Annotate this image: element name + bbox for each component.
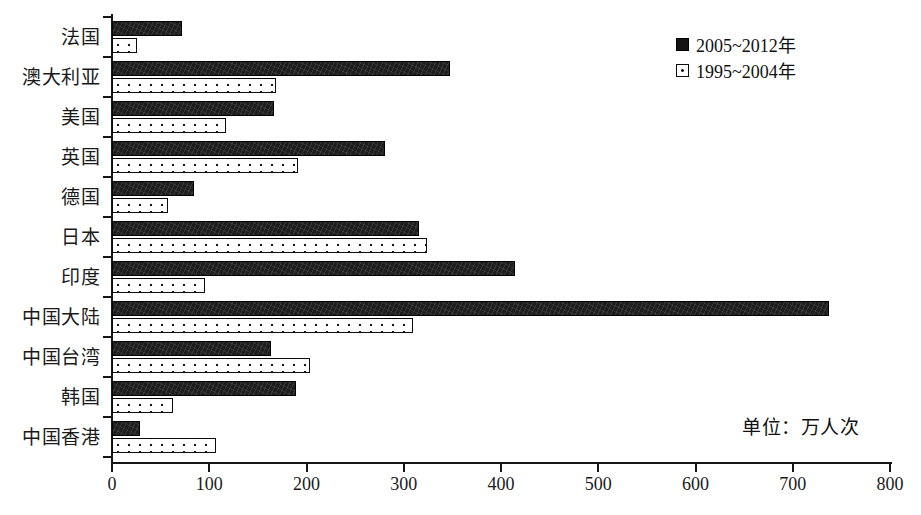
y-axis-tick [103,56,112,58]
y-axis-tick [103,456,112,458]
y-axis-tick [103,256,112,258]
x-axis-tick-label: 100 [179,474,239,495]
x-axis-tick-label: 0 [82,474,142,495]
y-axis-tick [103,176,112,178]
category-label: 英国 [61,138,100,178]
x-axis-tick-label: 300 [374,474,434,495]
bar-earlier [112,198,168,213]
category-label: 中国大陆 [22,298,100,338]
bar-recent [112,221,419,236]
plot-area: 0100200300400500600700800 [112,18,890,458]
bar-earlier [112,318,413,333]
x-axis-tick [111,464,113,472]
bar-recent [112,421,140,436]
x-axis-tick [597,464,599,472]
legend-label: 2005~2012年 [696,31,796,57]
category-label: 中国香港 [22,418,100,458]
y-axis-tick [103,96,112,98]
x-axis-tick [695,464,697,472]
y-axis-tick [103,216,112,218]
legend-swatch-solid-icon [676,38,689,51]
horizontal-bar-chart: 法国澳大利亚美国英国德国日本印度中国大陆中国台湾韩国中国香港 010020030… [0,0,921,515]
y-axis-tick [103,336,112,338]
bar-recent [112,261,515,276]
y-axis-tick [103,16,112,18]
category-label: 中国台湾 [22,338,100,378]
bar-recent [112,141,385,156]
bar-earlier [112,78,276,93]
y-axis-tick [103,376,112,378]
bar-earlier [112,278,205,293]
x-axis-tick-label: 200 [277,474,337,495]
bar-recent [112,301,829,316]
bar-recent [112,61,450,76]
bar-recent [112,21,182,36]
bar-recent [112,341,271,356]
bar-earlier [112,158,298,173]
bar-earlier [112,358,310,373]
category-label: 德国 [61,178,100,218]
x-axis-tick-label: 400 [471,474,531,495]
x-axis-tick [889,464,891,472]
category-label: 韩国 [61,378,100,418]
bar-earlier [112,118,226,133]
category-label: 美国 [61,98,100,138]
category-label: 澳大利亚 [22,58,100,98]
category-label: 法国 [61,18,100,58]
y-axis-tick [103,416,112,418]
bar-recent [112,381,296,396]
chart-legend: 2005~2012年1995~2004年 [676,31,896,83]
bar-earlier [112,398,173,413]
y-axis-tick [103,296,112,298]
legend-item: 1995~2004年 [676,57,896,83]
x-axis-tick-label: 700 [763,474,823,495]
x-axis-tick [792,464,794,472]
bar-recent [112,181,194,196]
bar-earlier [112,438,216,453]
category-label: 日本 [61,218,100,258]
x-axis-tick [208,464,210,472]
x-axis-tick-label: 800 [860,474,920,495]
bar-earlier [112,238,427,253]
x-axis-tick-label: 500 [568,474,628,495]
category-label: 印度 [61,258,100,298]
x-axis-tick [500,464,502,472]
bar-recent [112,101,274,116]
legend-item: 2005~2012年 [676,31,896,57]
bar-earlier [112,38,137,53]
category-axis: 法国澳大利亚美国英国德国日本印度中国大陆中国台湾韩国中国香港 [0,18,104,458]
unit-note: 单位：万人次 [742,412,859,439]
x-axis-tick [306,464,308,472]
x-axis-tick-label: 600 [666,474,726,495]
y-axis-tick [103,136,112,138]
legend-swatch-dotted-icon [676,64,689,77]
x-axis-tick [403,464,405,472]
legend-label: 1995~2004年 [696,57,796,83]
